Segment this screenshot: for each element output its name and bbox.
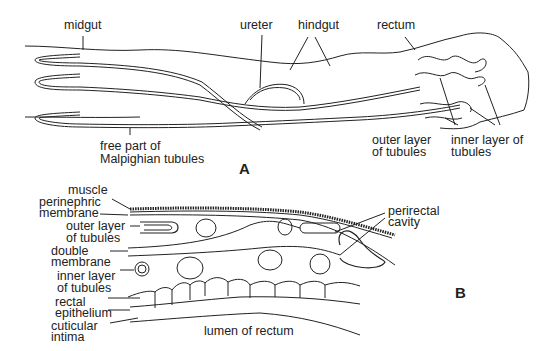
label-perirectal-2: cavity [388, 216, 420, 229]
label-b-inner-layer-2: of tubules [57, 282, 111, 295]
figure-a-drawing [25, 33, 529, 135]
label-free-part-2: Malpighian tubules [100, 153, 204, 166]
label-hindgut: hindgut [298, 19, 339, 32]
label-lumen: lumen of rectum [204, 325, 294, 338]
label-rectum: rectum [377, 19, 415, 32]
label-ureter: ureter [240, 19, 273, 32]
label-cuticular-intima-2: intima [51, 331, 84, 344]
label-double-membrane-2: membrane [51, 256, 111, 269]
panel-label-a: A [239, 162, 250, 175]
label-midgut: midgut [64, 19, 102, 32]
figure-b-drawing [100, 199, 395, 335]
panel-label-b: B [455, 286, 466, 299]
label-a-outer-layer-2: of tubules [372, 146, 426, 159]
label-a-inner-layer-2: tubules [451, 146, 491, 159]
